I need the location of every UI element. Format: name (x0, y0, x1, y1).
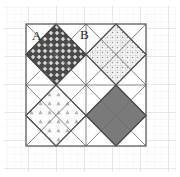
label-b: B (80, 28, 89, 41)
quilt-block-figure (0, 0, 180, 177)
figure-canvas: A B (0, 0, 180, 177)
label-a: A (32, 29, 41, 42)
diagonal-construction-lines (26, 24, 146, 146)
